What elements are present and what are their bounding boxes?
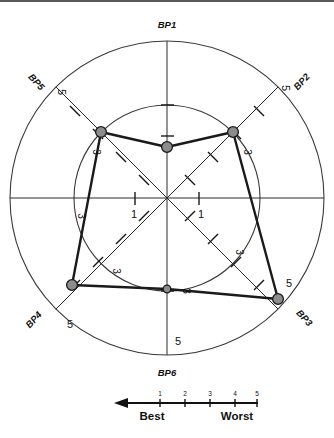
radar-chart-figure: BP1 BP2 BP3 BP4 BP5 BP6 5 5 5 5 5 1 1 3 … (0, 0, 334, 438)
legend-tick-label-2: 2 (183, 390, 187, 397)
data-point-bp6[interactable] (163, 285, 171, 293)
tick-bp5-4 (70, 106, 80, 116)
legend-worst-label: Worst (221, 410, 254, 422)
tick-bp3-1 (185, 211, 195, 221)
tick-bp5-2 (116, 152, 126, 162)
legend-tick-numbers: 1 2 3 4 5 (158, 390, 259, 397)
axis-label-bp3: BP3 (294, 307, 315, 329)
tick-label-bp4-5: 5 (67, 318, 73, 330)
tick-bp4-1 (139, 211, 149, 221)
tick-bp2-2 (208, 152, 218, 162)
tick-bp2-4 (254, 106, 264, 116)
tick-bp4-3 (93, 257, 103, 267)
data-point-bp5[interactable] (96, 127, 107, 138)
legend-tick-label-3: 3 (208, 390, 212, 397)
axis-label-bp6: BP6 (158, 367, 177, 378)
tick-label-bp3-3: 3 (234, 249, 245, 255)
data-point-bp2[interactable] (228, 127, 239, 138)
legend-tick-label-4: 4 (233, 390, 237, 397)
tick-label-bp5-3: 3 (91, 149, 102, 155)
tick-label-left-1: 1 (131, 208, 137, 220)
legend-best-label: Best (140, 410, 165, 422)
tick-bp3-3 (231, 257, 241, 267)
axis-label-bp5: BP5 (26, 71, 47, 93)
legend-tick-label-5: 5 (255, 390, 259, 397)
tick-label-bp5-5: 5 (56, 89, 68, 95)
tick-label-left-3: 3 (76, 213, 87, 219)
tick-bp5-1 (139, 175, 149, 185)
tick-label-bp6-5: 5 (175, 335, 181, 347)
tick-label-bp6-3: 3 (181, 288, 192, 294)
tick-label-bp2-3: 3 (242, 149, 253, 155)
legend-scale: 1 2 3 4 5 Best Worst (114, 390, 259, 422)
legend-arrow-left-icon (114, 398, 128, 408)
radar-chart-svg: BP1 BP2 BP3 BP4 BP5 BP6 5 5 5 5 5 1 1 3 … (0, 0, 334, 438)
axis-label-bp1: BP1 (158, 19, 176, 30)
data-point-bp1[interactable] (162, 142, 173, 153)
axis-label-bp4: BP4 (23, 309, 44, 331)
data-point-bp4[interactable] (67, 280, 78, 291)
data-polygon (72, 132, 278, 299)
tick-bp3-2 (208, 234, 218, 244)
axis-label-bp2: BP2 (291, 71, 312, 93)
data-point-bp3[interactable] (273, 294, 284, 305)
legend-tick-label-1: 1 (158, 390, 162, 397)
tick-label-bp2-5: 5 (280, 85, 292, 91)
tick-label-bp3-5: 5 (286, 277, 292, 289)
tick-bp4-2 (116, 234, 126, 244)
tick-label-right-1: 1 (198, 208, 204, 220)
tick-bp3-4 (254, 280, 264, 290)
tick-label-bp4-3: 3 (111, 268, 122, 274)
tick-bp2-1 (185, 175, 195, 185)
